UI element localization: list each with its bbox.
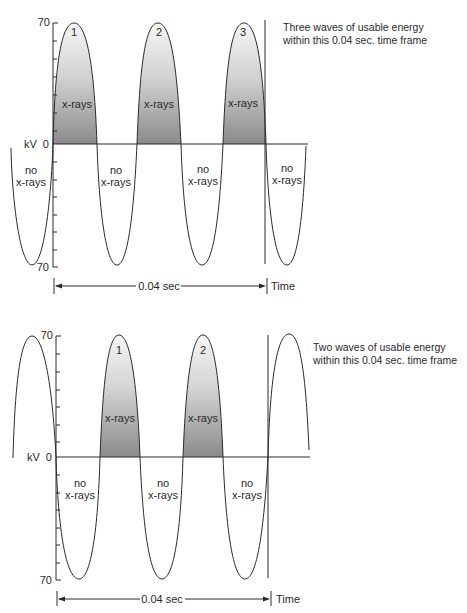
top-xray-label-1: x-rays: [62, 98, 92, 110]
top-caption-line-2: within this 0.04 sec. time frame: [283, 34, 427, 47]
bottom-time-axis-label: Time: [276, 593, 300, 605]
bottom-xray-label-1: x-rays: [105, 412, 135, 424]
top-diagram: 70 kV 0 70 1 2 3 x-rays x-rays x-rays no…: [11, 16, 308, 294]
top-caption-line-1: Three waves of usable energy: [283, 21, 427, 34]
top-ytick-70-neg: 70: [37, 261, 49, 273]
top-noxray-label-3: x-rays: [188, 175, 218, 187]
top-ytick-70: 70: [38, 16, 50, 28]
top-ylabel-kv-0: kV 0: [24, 138, 49, 150]
top-no-label-2: no: [110, 164, 122, 176]
bottom-caption-line-2: within this 0.04 sec. time frame: [313, 354, 457, 367]
bottom-arrow-right-icon: [263, 597, 270, 602]
bottom-noxray-label-1: x-rays: [65, 489, 95, 501]
top-noxray-label-2: x-rays: [101, 176, 131, 188]
top-xray-label-3: x-rays: [228, 97, 258, 109]
bottom-y-ticks: [56, 336, 61, 580]
top-noxray-label-1: x-rays: [16, 176, 46, 188]
top-y-ticks: [53, 23, 58, 267]
bottom-noxray-label-3: x-rays: [232, 489, 262, 501]
bottom-no-label-1: no: [74, 477, 86, 489]
top-xray-region-1: [53, 23, 97, 144]
top-noxray-label-4: x-rays: [272, 174, 302, 186]
top-arrow-right-icon: [259, 284, 266, 289]
top-time-axis-label: Time: [271, 280, 295, 292]
top-time-span-label: 0.04 sec: [138, 280, 180, 292]
diagram-canvas: 70 kV 0 70 1 2 3 x-rays x-rays x-rays no…: [0, 0, 467, 613]
top-xray-region-3: [223, 23, 266, 144]
bottom-caption-line-1: Two waves of usable energy: [313, 341, 457, 354]
bottom-time-span-label: 0.04 sec: [141, 593, 183, 605]
bottom-caption: Two waves of usable energy within this 0…: [313, 341, 457, 367]
top-no-label-1: no: [25, 164, 37, 176]
bottom-wave-number-1: 1: [116, 344, 122, 356]
top-wave-number-2: 2: [156, 26, 162, 38]
top-no-label-4: no: [281, 162, 293, 174]
bottom-arrow-left-icon: [58, 597, 65, 602]
bottom-ylabel-kv-0: kV 0: [27, 451, 52, 463]
bottom-ytick-70-neg: 70: [40, 574, 52, 586]
bottom-ytick-70: 70: [41, 329, 53, 341]
bottom-no-label-3: no: [241, 477, 253, 489]
bottom-diagram: 70 kV 0 70 1 2 x-rays x-rays no x-rays n…: [13, 329, 310, 606]
top-xray-label-2: x-rays: [144, 98, 174, 110]
top-arrow-left-icon: [55, 284, 62, 289]
top-wave-number-3: 3: [240, 26, 246, 38]
bottom-xray-label-2: x-rays: [188, 412, 218, 424]
top-xray-region-2: [137, 23, 181, 144]
top-no-label-3: no: [197, 163, 209, 175]
top-wave-number-1: 1: [71, 26, 77, 38]
bottom-wave-number-2: 2: [200, 344, 206, 356]
top-caption: Three waves of usable energy within this…: [283, 21, 427, 47]
bottom-no-label-2: no: [157, 477, 169, 489]
bottom-noxray-label-2: x-rays: [148, 489, 178, 501]
